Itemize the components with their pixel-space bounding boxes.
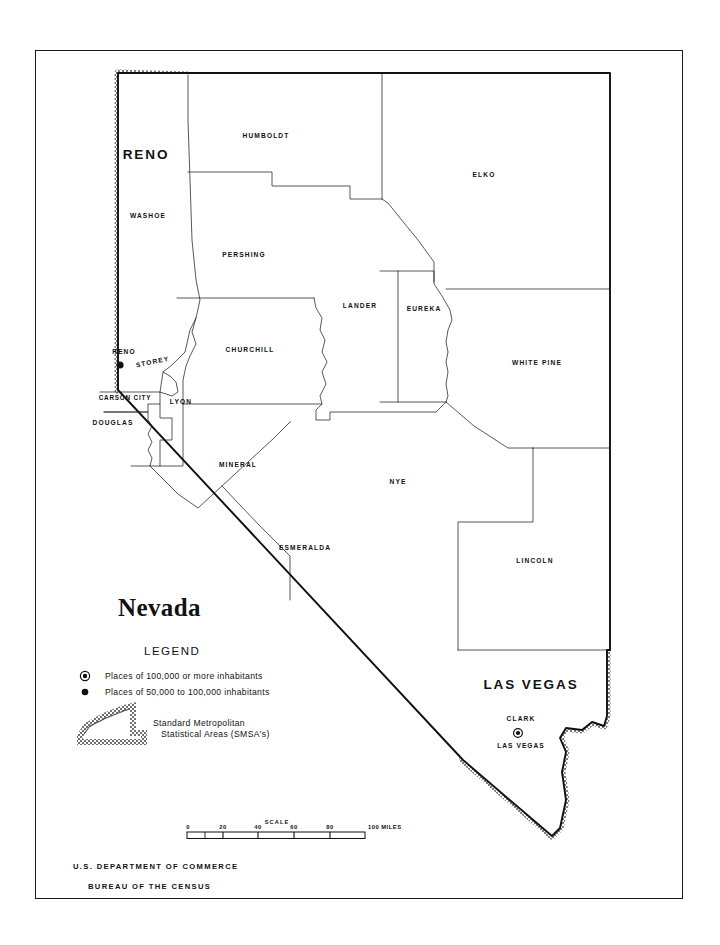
- map-frame-border: [35, 50, 683, 899]
- map-page: WASHOE HUMBOLDT ELKO PERSHING LANDER EUR…: [0, 0, 720, 945]
